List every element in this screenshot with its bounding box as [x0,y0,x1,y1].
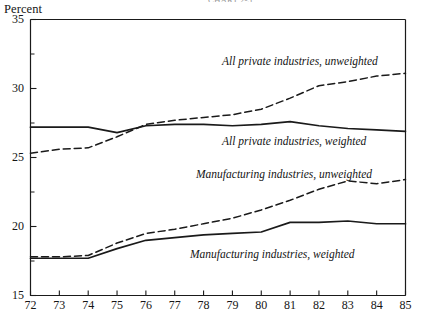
x-tick-label: 75 [105,298,129,313]
plot-surface [0,0,422,323]
x-tick-label: 77 [163,298,187,313]
y-tick-label: 30 [2,81,24,96]
chart-container: CHART 2-5 Percent 1520253035 72737475767… [0,0,422,323]
x-tick-label: 76 [134,298,158,313]
x-tick-label: 79 [220,298,244,313]
series-line-2 [31,180,406,257]
x-tick-label: 82 [307,298,331,313]
x-tick-label: 73 [47,298,71,313]
x-tick-label: 84 [365,298,389,313]
x-tick-label: 85 [394,298,418,313]
y-axis-ticks [31,20,37,296]
x-tick-label: 78 [192,298,216,313]
x-tick-label: 74 [76,298,100,313]
series-paths [31,73,406,258]
x-tick-label: 80 [249,298,273,313]
x-tick-label: 72 [19,298,43,313]
series-label-1: All private industries, weighted [222,135,366,147]
series-label-3: Manufacturing industries, weighted [190,248,355,260]
y-tick-label: 20 [2,219,24,234]
x-axis-ticks [31,291,406,296]
series-label-0: All private industries, unweighted [222,55,378,67]
series-line-1 [31,122,406,133]
x-tick-label: 81 [278,298,302,313]
y-tick-label: 35 [2,12,24,27]
x-tick-label: 83 [336,298,360,313]
y-tick-label: 25 [2,150,24,165]
series-label-2: Manufacturing industries, unweighted [196,168,372,180]
